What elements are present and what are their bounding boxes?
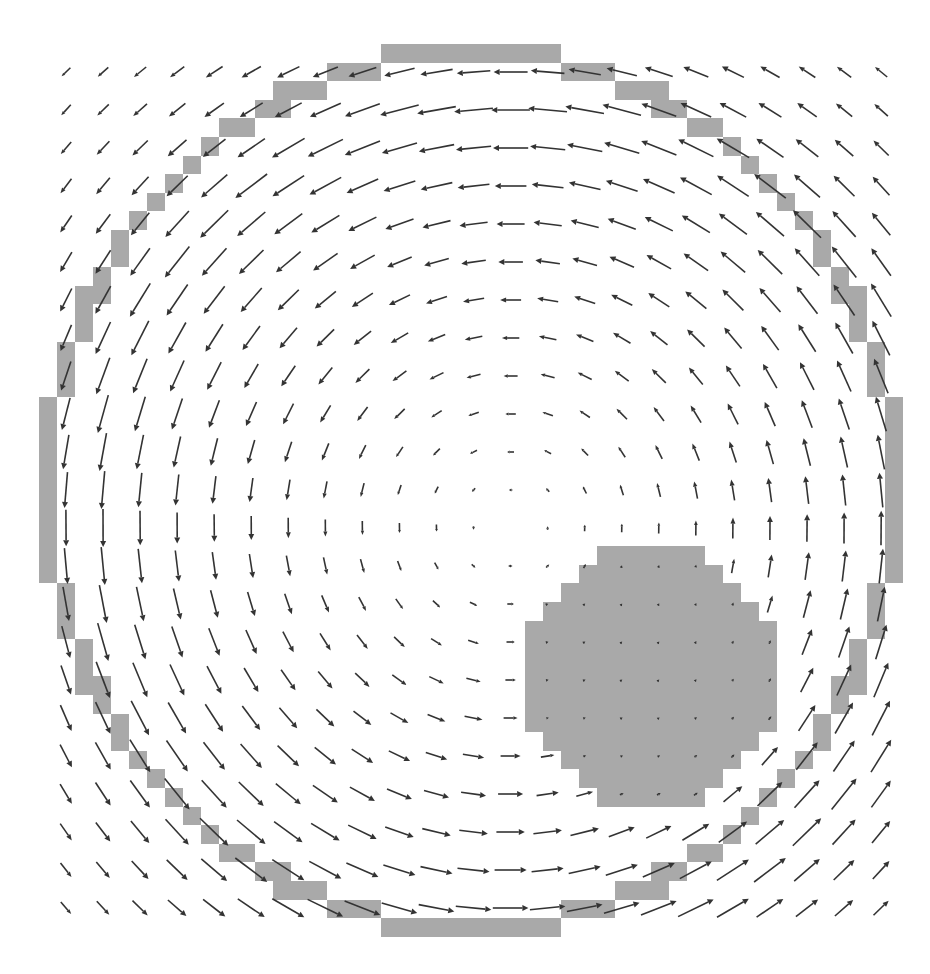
velocity-arrow bbox=[210, 476, 216, 504]
arrowhead-icon bbox=[572, 257, 579, 263]
obstacle-cell bbox=[579, 565, 723, 584]
wall-cell bbox=[399, 44, 417, 63]
wall-cell bbox=[651, 81, 669, 100]
velocity-arrow bbox=[717, 176, 749, 197]
wall-cell bbox=[75, 639, 93, 658]
velocity-arrow bbox=[279, 708, 297, 729]
velocity-arrow bbox=[841, 513, 847, 544]
arrowhead-icon bbox=[505, 413, 508, 416]
wall-cell bbox=[885, 453, 903, 472]
velocity-arrow bbox=[357, 635, 368, 649]
wall-cell bbox=[849, 286, 867, 305]
velocity-arrow bbox=[60, 705, 72, 731]
arrowhead-icon bbox=[731, 518, 736, 524]
arrowhead-icon bbox=[384, 186, 391, 192]
velocity-arrow bbox=[728, 404, 738, 425]
velocity-arrow bbox=[678, 899, 714, 916]
velocity-arrow bbox=[498, 259, 523, 265]
velocity-arrow bbox=[426, 753, 447, 761]
velocity-arrow bbox=[96, 214, 111, 234]
arrowhead-icon bbox=[578, 373, 583, 377]
velocity-arrow bbox=[571, 219, 599, 227]
velocity-arrow bbox=[732, 559, 736, 573]
velocity-arrow bbox=[394, 409, 405, 419]
velocity-arrow bbox=[682, 824, 709, 840]
arrowhead-icon bbox=[323, 493, 327, 499]
arrowhead-icon bbox=[657, 522, 660, 525]
wall-cell bbox=[219, 844, 237, 863]
wall-cell bbox=[651, 100, 669, 119]
arrowhead-icon bbox=[439, 680, 444, 684]
arrowhead-icon bbox=[657, 483, 660, 488]
wall-cell bbox=[417, 918, 435, 937]
arrowhead-icon bbox=[140, 615, 146, 622]
velocity-arrow bbox=[797, 103, 816, 117]
velocity-arrow bbox=[419, 145, 454, 154]
arrowhead-icon bbox=[362, 568, 365, 573]
velocity-arrow bbox=[763, 364, 777, 388]
arrowhead-icon bbox=[457, 70, 463, 76]
arrowhead-icon bbox=[325, 607, 329, 613]
velocity-arrow bbox=[502, 336, 519, 340]
wall-cell bbox=[849, 639, 867, 658]
velocity-arrow bbox=[456, 906, 492, 912]
arrowhead-icon bbox=[249, 572, 255, 578]
arrowhead-icon bbox=[805, 552, 811, 558]
velocity-arrow bbox=[64, 548, 70, 584]
velocity-arrow bbox=[96, 178, 110, 194]
arrowhead-icon bbox=[839, 437, 845, 444]
arrowhead-icon bbox=[448, 907, 455, 913]
velocity-arrow bbox=[237, 820, 266, 844]
velocity-arrow bbox=[357, 407, 367, 421]
arrowhead-icon bbox=[247, 457, 253, 464]
arrowhead-icon bbox=[62, 502, 68, 508]
velocity-arrow bbox=[419, 905, 455, 914]
arrowhead-icon bbox=[843, 589, 849, 596]
arrowhead-icon bbox=[141, 653, 147, 660]
velocity-arrow bbox=[283, 404, 293, 425]
wall-cell bbox=[705, 118, 723, 137]
wall-cell bbox=[849, 304, 867, 323]
velocity-arrow bbox=[313, 253, 338, 270]
velocity-arrow bbox=[583, 525, 586, 532]
wall-cell bbox=[39, 528, 57, 547]
velocity-arrow bbox=[350, 255, 375, 269]
velocity-arrow bbox=[237, 212, 265, 236]
velocity-arrow bbox=[765, 440, 773, 464]
velocity-arrow bbox=[761, 326, 779, 350]
velocity-arrow bbox=[421, 183, 453, 192]
velocity-arrow bbox=[871, 740, 891, 772]
velocity-arrow bbox=[248, 592, 256, 616]
arrowhead-icon bbox=[380, 111, 387, 117]
arrowhead-icon bbox=[497, 221, 503, 227]
velocity-arrow bbox=[387, 789, 412, 800]
velocity-arrow bbox=[720, 103, 747, 117]
velocity-arrow bbox=[272, 899, 304, 918]
velocity-arrow bbox=[567, 143, 602, 152]
arrowhead-icon bbox=[391, 338, 397, 343]
velocity-arrow bbox=[537, 791, 559, 796]
velocity-arrow bbox=[731, 518, 736, 539]
velocity-arrow bbox=[842, 551, 848, 582]
wall-cell bbox=[93, 267, 111, 286]
arrowhead-icon bbox=[97, 426, 103, 433]
wall-cell bbox=[849, 658, 867, 677]
velocity-arrow bbox=[800, 362, 814, 390]
arrowhead-icon bbox=[66, 688, 72, 695]
velocity-arrow bbox=[504, 374, 518, 377]
velocity-arrow bbox=[546, 526, 549, 530]
velocity-arrow bbox=[101, 547, 107, 585]
obstacle-cell bbox=[525, 639, 777, 658]
wall-cell bbox=[39, 435, 57, 454]
velocity-arrow bbox=[423, 221, 451, 229]
wall-cell bbox=[111, 732, 129, 751]
wall-cell bbox=[93, 695, 111, 714]
arrowhead-icon bbox=[500, 298, 506, 303]
velocity-arrow bbox=[397, 485, 401, 495]
velocity-arrow bbox=[472, 488, 475, 491]
velocity-arrow bbox=[138, 549, 144, 583]
velocity-arrow bbox=[173, 475, 179, 506]
wall-cell bbox=[885, 416, 903, 435]
velocity-arrow bbox=[350, 787, 375, 801]
arrowhead-icon bbox=[178, 651, 184, 658]
